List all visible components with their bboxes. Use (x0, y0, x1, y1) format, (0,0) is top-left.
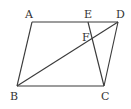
segment-ab (17, 22, 32, 86)
label-e: E (84, 8, 92, 21)
label-a: A (24, 8, 34, 21)
segment-bd (17, 22, 118, 86)
label-c: C (101, 90, 109, 103)
label-b: B (10, 90, 18, 103)
geometry-diagram: A E D F B C (0, 0, 131, 109)
segment-ec (88, 22, 104, 86)
label-d: D (116, 8, 125, 21)
label-f: F (82, 31, 90, 44)
segment-cd (104, 22, 118, 86)
